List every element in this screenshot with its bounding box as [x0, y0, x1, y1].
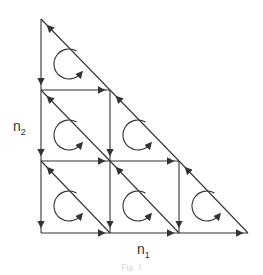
arrow-icon [49, 28, 50, 29]
diagonal-edge [41, 161, 110, 233]
diagonal-edge [179, 161, 248, 233]
diagonal-edge [110, 161, 179, 233]
circulation-arrow-icon [192, 191, 218, 221]
circulation-arrow-icon [123, 191, 149, 221]
circulation-group [54, 49, 218, 221]
figure-caption: Fig. 1 [0, 262, 263, 272]
circulation-arrow-icon [54, 49, 80, 79]
circulation-arrow-icon [54, 191, 80, 221]
edge-group [41, 19, 248, 233]
arrow-icon [118, 170, 119, 171]
arrow-icon [118, 99, 119, 100]
arrow-icon [49, 99, 50, 100]
circulation-arrow-icon [54, 120, 80, 150]
diagonal-edge [41, 19, 110, 90]
x-axis-label: n1 [137, 241, 150, 260]
arrow-icon [49, 170, 50, 171]
circulation-arrow-icon [123, 120, 149, 150]
arrow-icon [187, 170, 188, 171]
diagonal-edge [110, 90, 179, 161]
diagonal-edge [41, 90, 110, 161]
lattice-diagram [0, 0, 263, 275]
y-axis-label: n2 [13, 118, 26, 137]
